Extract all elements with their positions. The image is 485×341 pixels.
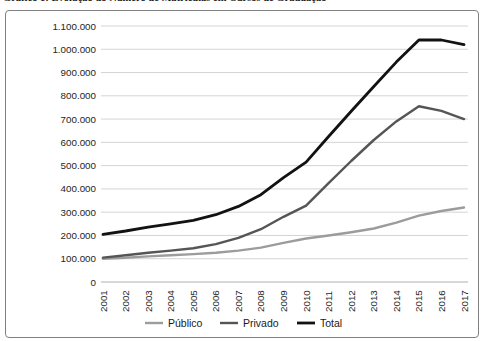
y-tick-label: 300.000 — [61, 207, 97, 218]
y-tick-label: 600.000 — [61, 137, 97, 148]
x-tick-label: 2008 — [255, 290, 266, 312]
y-tick-label: 200.000 — [61, 230, 97, 241]
x-tick-label: 2017 — [459, 290, 470, 312]
series-line-total — [103, 40, 464, 234]
series-line-privado — [103, 106, 464, 257]
y-tick-label: 100.000 — [61, 253, 97, 264]
x-tick-label: 2002 — [120, 290, 131, 312]
legend-label: Público — [168, 317, 203, 329]
x-tick-label: 2007 — [233, 290, 244, 312]
y-tick-label: 400.000 — [61, 183, 97, 194]
x-tick-label: 2005 — [188, 290, 199, 312]
y-tick-label: 1.100.000 — [52, 21, 96, 32]
y-tick-label: 900.000 — [61, 67, 97, 78]
x-tick-label: 2010 — [301, 290, 312, 312]
x-tick-label: 2014 — [391, 290, 402, 312]
x-tick-label: 2006 — [210, 290, 221, 312]
x-tick-label: 2012 — [346, 290, 357, 312]
x-tick-label: 2013 — [368, 290, 379, 312]
y-tick-label: 700.000 — [61, 114, 97, 125]
chart-title-text: Gráfico 1: Evolução do Número de Matrícu… — [3, 0, 327, 3]
y-tick-label: 800.000 — [61, 90, 97, 101]
chart-frame: 0100.000200.000300.000400.000500.000600.… — [5, 10, 479, 338]
x-tick-label: 2011 — [323, 291, 334, 312]
x-tick-label: 2001 — [98, 290, 109, 312]
legend-label: Total — [320, 317, 342, 329]
chart-title-clipped: Gráfico 1: Evolução do Número de Matrícu… — [3, 0, 473, 6]
x-tick-label: 2004 — [165, 290, 176, 312]
x-tick-label: 2016 — [436, 290, 447, 312]
y-tick-label: 1.000.000 — [52, 44, 96, 55]
x-tick-label: 2009 — [278, 290, 289, 312]
y-tick-label: 500.000 — [61, 160, 97, 171]
x-tick-label: 2015 — [413, 290, 424, 312]
y-tick-label: 0 — [91, 277, 97, 288]
x-tick-label: 2003 — [143, 290, 154, 312]
chart-canvas: 0100.000200.000300.000400.000500.000600.… — [6, 11, 478, 337]
legend-label: Privado — [243, 317, 279, 329]
